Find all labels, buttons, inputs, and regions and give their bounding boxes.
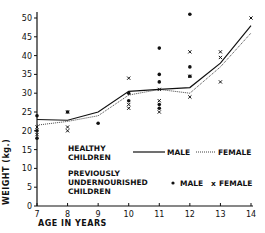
legend-female-line-label: FEMALE <box>218 148 251 157</box>
legend-healthy-label-1: HEALTHY <box>68 144 106 153</box>
legend-male-dot-label: MALE <box>180 179 203 188</box>
y-tick-label: 5 <box>27 183 32 192</box>
y-tick-label: 15 <box>22 146 32 155</box>
legend: HEALTHY CHILDREN MALE FEMALE PREVIOUSLY … <box>68 144 252 196</box>
x-tick-label: 9 <box>96 210 101 219</box>
female-cross-point <box>66 129 69 132</box>
female-cross-point <box>127 107 130 110</box>
male-dot-point <box>157 73 161 77</box>
y-axis-title: WEIGHT (kg.) <box>2 139 11 205</box>
x-tick-label: 13 <box>215 210 225 219</box>
female-cross-point <box>219 80 222 83</box>
female-cross-point <box>219 50 222 53</box>
female-cross-point <box>127 103 130 106</box>
undernourished-points <box>35 12 252 140</box>
x-tick-label: 14 <box>246 210 256 219</box>
y-tick-label: 30 <box>22 89 32 98</box>
y-tick-label: 35 <box>22 70 32 79</box>
legend-prev-label-3: CHILDREN <box>68 187 111 196</box>
legend-female-cross-label: FEMALE <box>219 179 252 188</box>
weight-age-chart: 05101520253035404550 7891011121314 WEIGH… <box>0 0 265 233</box>
y-tick-label: 25 <box>22 108 32 117</box>
legend-dot-icon <box>171 181 174 184</box>
x-tick-label: 8 <box>65 210 70 219</box>
female-cross-point <box>188 50 191 53</box>
healthy-lines <box>37 26 251 126</box>
y-tick-label: 0 <box>27 202 32 211</box>
male-dot-point <box>35 114 39 118</box>
y-tick-label: 20 <box>22 127 32 136</box>
legend-male-line-label: MALE <box>167 148 190 157</box>
male-dot-point <box>35 137 39 141</box>
male-dot-point <box>157 46 161 50</box>
x-tick-label: 11 <box>154 210 164 219</box>
y-tick-label: 40 <box>22 52 32 61</box>
female-cross-point <box>249 16 252 19</box>
female-cross-point <box>158 99 161 102</box>
female-cross-point <box>66 125 69 128</box>
male-dot-point <box>157 80 161 84</box>
legend-prev-label-2: UNDERNOURISHED <box>68 178 148 187</box>
female-cross-point <box>188 95 191 98</box>
male-dot-point <box>188 12 192 16</box>
legend-healthy-label-2: CHILDREN <box>68 153 111 162</box>
y-tick-label: 50 <box>22 14 32 23</box>
male-dot-point <box>35 129 39 133</box>
y-axis-ticks: 05101520253035404550 <box>22 14 37 211</box>
female-cross-point <box>127 77 130 80</box>
male-dot-point <box>127 99 131 103</box>
x-tick-label: 10 <box>124 210 134 219</box>
female-cross-point <box>158 110 161 113</box>
x-axis-title: AGE IN YEARS <box>38 219 107 228</box>
healthy-male-line <box>37 26 251 121</box>
male-dot-point <box>127 91 131 95</box>
y-tick-label: 45 <box>22 33 32 42</box>
male-dot-point <box>96 121 100 125</box>
male-dot-point <box>157 106 161 110</box>
legend-cross-icon: x <box>211 179 216 188</box>
male-dot-point <box>157 103 161 107</box>
y-tick-label: 10 <box>22 164 32 173</box>
legend-prev-label-1: PREVIOUSLY <box>68 169 120 178</box>
female-cross-point <box>219 56 222 59</box>
x-tick-label: 12 <box>185 210 195 219</box>
male-dot-point <box>188 65 192 69</box>
x-tick-label: 7 <box>34 210 39 219</box>
